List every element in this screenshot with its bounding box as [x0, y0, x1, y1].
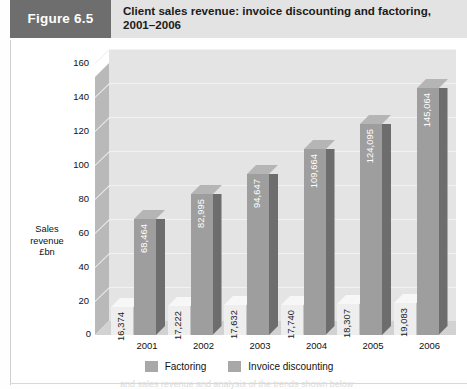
y-axis-tick-label: 140 [55, 91, 89, 102]
bar-invoice-discounting-2003[interactable]: 94,647 [247, 174, 269, 335]
y-axis-title-line-2: revenue [17, 236, 77, 248]
legend-item-invoice-discounting[interactable]: Invoice discounting [228, 361, 333, 372]
x-axis-label-2001: 2001 [117, 340, 177, 351]
bar-side [213, 194, 222, 335]
y-axis-tick-label: 40 [55, 261, 89, 272]
bar-value-label: 18,307 [342, 309, 352, 338]
gridline [109, 117, 456, 118]
gridline-side [95, 49, 110, 64]
bar-factoring-2001[interactable]: 16,374 [111, 307, 133, 335]
figure-number-label: Figure 6.5 [10, 11, 111, 26]
x-axis-label-2006: 2006 [400, 340, 460, 351]
figure-header: Figure 6.5 Client sales revenue: invoice… [10, 0, 467, 38]
bar-value-label: 109,664 [309, 154, 319, 188]
bar-chart: 20406080100120140160 Sales revenue £bn 0… [11, 40, 467, 380]
y-axis-tick-label: 160 [55, 57, 89, 68]
bar-value-label: 68,464 [139, 224, 149, 253]
y-axis-tick-label: 120 [55, 125, 89, 136]
gridline [109, 151, 456, 152]
bar-factoring-2004[interactable]: 17,740 [281, 305, 303, 335]
page-bleed-text: and sales revenue and analysis of the tr… [120, 379, 460, 389]
bar-value-label: 145,064 [422, 93, 432, 127]
figure-number-badge: Figure 6.5 [10, 0, 111, 38]
x-axis-label-2003: 2003 [230, 340, 290, 351]
bar-value-label: 16,374 [116, 312, 126, 341]
x-axis-label-2004: 2004 [287, 340, 347, 351]
gridline [109, 83, 456, 84]
bar-invoice-discounting-2006[interactable]: 145,064 [417, 88, 439, 335]
gridline [109, 185, 456, 186]
bar-factoring-2003[interactable]: 17,632 [224, 305, 246, 335]
y-axis-title: Sales revenue £bn [17, 224, 77, 259]
y-axis-tick-label: 80 [55, 193, 89, 204]
legend-swatch-factoring [145, 361, 158, 372]
bar-factoring-2006[interactable]: 19,083 [394, 303, 416, 335]
chart-legend: Factoring Invoice discounting [11, 358, 467, 374]
y-axis-tick-label: 20 [55, 295, 89, 306]
bar-invoice-discounting-2001[interactable]: 68,464 [134, 219, 156, 335]
bar-side [439, 88, 448, 335]
bar-factoring-2005[interactable]: 18,307 [337, 304, 359, 335]
x-axis-label-2005: 2005 [343, 340, 403, 351]
x-axis-label-2002: 2002 [174, 340, 234, 351]
gridline [109, 49, 456, 50]
y-axis-zero-label: 0 [61, 328, 91, 339]
legend-item-factoring[interactable]: Factoring [145, 361, 207, 372]
legend-label-invoice-discounting: Invoice discounting [248, 361, 333, 372]
bar-value-label: 82,995 [196, 199, 206, 228]
figure-title-bar: Client sales revenue: invoice discountin… [111, 0, 467, 38]
bar-factoring-2002[interactable]: 17,222 [168, 306, 190, 335]
y-axis-title-line-1: Sales [17, 224, 77, 236]
bar-invoice-discounting-2004[interactable]: 109,664 [304, 149, 326, 335]
bar-value-label: 17,740 [286, 310, 296, 339]
y-axis-tick-label: 100 [55, 159, 89, 170]
legend-label-factoring: Factoring [165, 361, 207, 372]
bar-invoice-discounting-2005[interactable]: 124,095 [360, 124, 382, 335]
bar-invoice-discounting-2002[interactable]: 82,995 [191, 194, 213, 335]
bar-side [382, 124, 391, 335]
bar-value-label: 94,647 [252, 179, 262, 208]
bar-side [326, 149, 335, 335]
bar-value-label: 19,083 [399, 308, 409, 337]
y-axis-title-line-3: £bn [17, 247, 77, 259]
page-title: Client sales revenue: invoice discountin… [123, 4, 461, 33]
bar-side [156, 219, 165, 335]
bar-value-label: 17,222 [173, 311, 183, 340]
bar-value-label: 17,632 [229, 310, 239, 339]
bar-side [269, 174, 278, 335]
legend-swatch-invoice-discounting [228, 361, 241, 372]
bar-value-label: 124,095 [365, 129, 375, 163]
